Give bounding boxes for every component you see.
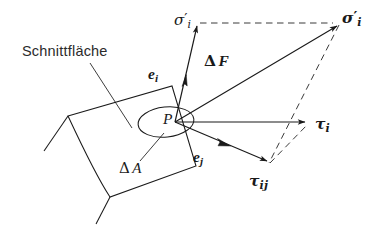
e-i-symbol: e <box>148 65 155 82</box>
cut-surface-patch <box>68 86 196 197</box>
delta-F-vector <box>175 26 337 122</box>
sigma-vector-subscript-i: i <box>357 16 362 29</box>
tau-i-label: τi <box>315 116 330 134</box>
delta-force-label: ΔF <box>204 53 229 69</box>
sigma-i-vector-label: σ′i <box>342 10 362 28</box>
force-symbol: F <box>219 52 229 69</box>
delta-force-symbol: Δ <box>204 51 216 70</box>
delta-area-symbol: Δ <box>119 159 130 177</box>
tau-symbol: τ <box>315 114 325 133</box>
surface-leader-line <box>90 63 132 128</box>
area-symbol: A <box>132 160 141 176</box>
e-j-label: ej <box>193 149 203 167</box>
dash-bottom-diagonal <box>270 124 308 163</box>
tau-ij-label: τij <box>249 173 268 191</box>
sigma-i-prime-vector <box>175 26 197 122</box>
e-i-label: ei <box>148 66 158 84</box>
edge-lower-left-tail <box>96 197 110 224</box>
e-j-subscript: j <box>200 155 203 167</box>
e-j-arrowhead <box>218 139 231 147</box>
sigma-symbol: σ <box>174 11 184 29</box>
sigma-i-prime-label: σ′i <box>174 12 191 31</box>
tau-ij-symbol: τ <box>249 171 259 190</box>
sigma-subscript-i: i <box>188 18 192 31</box>
tau-ij-subscript-j: j <box>264 179 268 192</box>
e-i-arrowhead <box>182 75 187 87</box>
area-leader-line <box>140 133 164 161</box>
sigma-vector-symbol: σ <box>342 8 353 27</box>
stress-vector-diagram: Schnittfläche P ΔA ΔF σ′i σ′i τi τij ei … <box>0 0 372 228</box>
point-label: P <box>163 111 172 127</box>
e-i-subscript: i <box>155 72 158 84</box>
vectors-group <box>175 26 337 161</box>
e-j-symbol: e <box>193 148 200 165</box>
edge-upper-left-tail <box>44 116 68 151</box>
surface-label: Schnittfläche <box>22 44 108 59</box>
unit-vector-arrowheads <box>175 75 231 147</box>
delta-area-label: ΔA <box>119 161 142 176</box>
tau-subscript-i: i <box>325 122 330 135</box>
